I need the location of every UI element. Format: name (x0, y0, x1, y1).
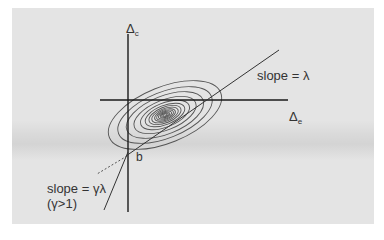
y-axis-label: Δc (126, 22, 139, 38)
x-axis-label: Δe (289, 110, 302, 126)
slope-gamma-lambda-label: slope = γλ (47, 182, 106, 196)
slope-lambda-line (126, 50, 279, 156)
slope-lambda-label: slope = λ (257, 69, 309, 83)
slope-gamma-lambda-line (104, 152, 128, 210)
contour-ellipses (99, 67, 231, 164)
intercept-label: b (136, 150, 143, 164)
gamma-condition-label: (γ>1) (47, 197, 77, 211)
